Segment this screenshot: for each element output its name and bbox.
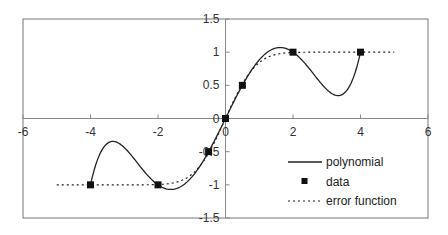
data-point-marker bbox=[222, 115, 229, 122]
y-tick-label: -1.5 bbox=[199, 211, 220, 225]
data-point-marker bbox=[290, 49, 297, 56]
legend-error-function-label: error function bbox=[326, 194, 397, 208]
y-tick-label: 0 bbox=[213, 112, 220, 126]
y-tick-label: 0.5 bbox=[203, 78, 220, 92]
legend-polynomial-label: polynomial bbox=[326, 155, 383, 169]
x-tick-label: 2 bbox=[290, 125, 297, 139]
x-tick-label: 4 bbox=[357, 125, 364, 139]
x-tick-label: 6 bbox=[425, 125, 432, 139]
data-point-marker bbox=[357, 49, 364, 56]
x-tick-label: 0 bbox=[222, 125, 229, 139]
data-point-marker bbox=[155, 181, 162, 188]
data-point-marker bbox=[239, 82, 246, 89]
y-tick-label: -1 bbox=[209, 178, 220, 192]
y-tick-label: 1.5 bbox=[203, 12, 220, 26]
data-point-marker bbox=[205, 148, 212, 155]
x-tick-label: -4 bbox=[85, 125, 96, 139]
y-tick-label: 1 bbox=[213, 45, 220, 59]
legend-data-label: data bbox=[326, 175, 350, 189]
x-tick-label: -2 bbox=[153, 125, 164, 139]
legend-data-swatch bbox=[302, 178, 308, 184]
data-point-marker bbox=[87, 181, 94, 188]
chart: -6-4-20246 1.510.50-0.5-1-1.5 polynomial… bbox=[0, 0, 448, 235]
x-tick-label: -6 bbox=[18, 125, 29, 139]
